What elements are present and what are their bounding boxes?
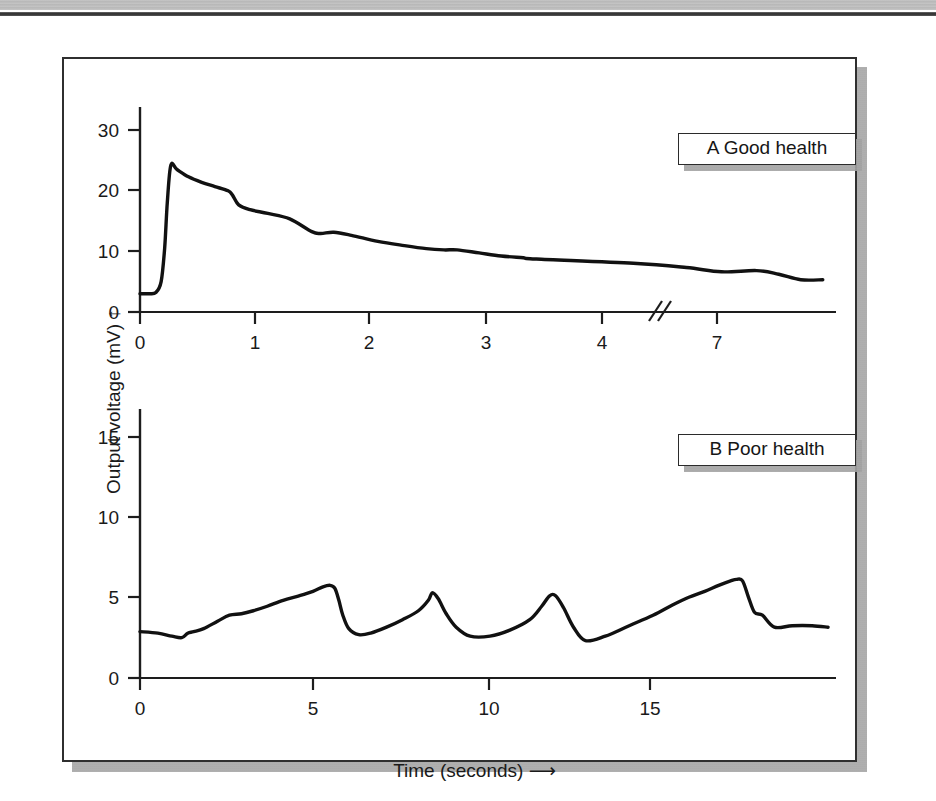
y-axis-arrow-icon: ↑ [103,310,124,319]
panel-b-xtick-5: 5 [308,698,319,719]
page-top-texture-band [0,0,936,10]
panel-b-svg: 15 10 5 0 0 5 10 15 [64,59,859,764]
x-axis-arrow-icon: ⟶ [529,760,555,781]
panel-b-label: B Poor health [678,434,856,466]
panel-b-ytick-5: 5 [108,587,119,608]
y-axis-title: Output voltage (mV) ↑ [103,272,129,532]
panel-b-y-ticks [128,437,140,678]
panel-b-xtick-15: 15 [639,698,660,719]
page-horizontal-rule [0,12,936,16]
x-axis-title-text: Time (seconds) [393,760,523,781]
x-axis-title: Time (seconds) ⟶ [264,759,684,785]
figure-frame: 30 20 10 0 0 1 2 3 4 7 [62,57,857,762]
panel-b-xtick-10: 10 [478,698,499,719]
y-axis-title-text: Output voltage (mV) [103,324,124,494]
panel-b-x-ticks [140,678,650,690]
panel-b-ytick-0: 0 [108,668,119,689]
panel-b-data-curve [140,579,828,641]
chart-panel-b-poor-health: 15 10 5 0 0 5 10 15 [64,59,859,764]
panel-b-xtick-0: 0 [135,698,146,719]
